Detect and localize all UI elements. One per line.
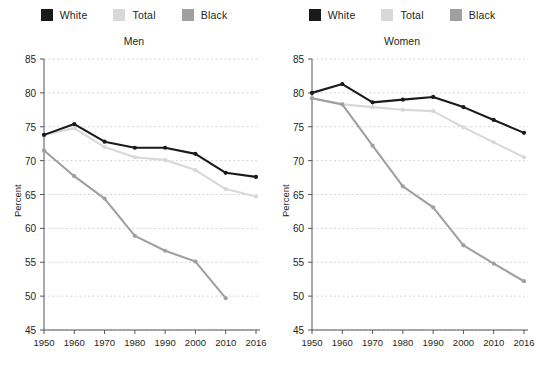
data-point (522, 155, 526, 159)
data-point (193, 259, 197, 263)
data-point (133, 146, 137, 150)
data-point (340, 102, 344, 106)
data-point (163, 146, 167, 150)
x-tick-label: 2000 (185, 337, 206, 348)
x-tick-label: 1990 (423, 337, 444, 348)
x-tick-label: 1950 (33, 337, 54, 348)
data-point (310, 96, 314, 100)
data-point (224, 296, 228, 300)
data-point (461, 243, 465, 247)
data-point (370, 100, 374, 104)
data-point (431, 205, 435, 209)
chart-svg (0, 0, 268, 377)
x-tick-label: 1970 (94, 337, 115, 348)
y-tick-label: 55 (14, 257, 36, 268)
x-tick-label: 1980 (124, 337, 145, 348)
data-point (72, 126, 76, 130)
data-point (102, 145, 106, 149)
x-tick-label: 1990 (155, 337, 176, 348)
data-point (42, 148, 46, 152)
data-point (133, 155, 137, 159)
data-point (193, 152, 197, 156)
data-point (522, 279, 526, 283)
data-point (193, 168, 197, 172)
data-point (492, 140, 496, 144)
data-point (370, 144, 374, 148)
series-line (312, 84, 524, 133)
x-tick-label: 1960 (64, 337, 85, 348)
y-tick-label: 50 (14, 291, 36, 302)
y-axis-label: Percent (12, 184, 23, 217)
y-tick-label: 85 (14, 54, 36, 65)
y-tick-label: 75 (14, 121, 36, 132)
data-point (254, 194, 258, 198)
series-total (42, 126, 258, 199)
y-tick-label: 45 (14, 325, 36, 336)
x-tick-label: 1970 (362, 337, 383, 348)
data-point (224, 171, 228, 175)
y-tick-label: 80 (282, 87, 304, 98)
data-point (163, 158, 167, 162)
chart-panel-men: WhiteTotalBlack Men 45505560657075808519… (0, 0, 268, 377)
data-point (102, 140, 106, 144)
data-point (401, 184, 405, 188)
y-tick-label: 55 (282, 257, 304, 268)
x-tick-label: 2000 (453, 337, 474, 348)
series-black (310, 96, 526, 283)
data-point (431, 95, 435, 99)
series-line (44, 124, 256, 177)
data-point (72, 122, 76, 126)
series-black (42, 148, 228, 300)
series-white (42, 122, 258, 179)
data-point (492, 262, 496, 266)
chart-svg (268, 0, 536, 377)
data-point (492, 118, 496, 122)
y-tick-label: 50 (282, 291, 304, 302)
x-tick-label: 2016 (245, 337, 266, 348)
y-tick-label: 45 (282, 325, 304, 336)
chart-panel-women: WhiteTotalBlack Women 455055606570758085… (268, 0, 536, 377)
x-tick-label: 2016 (513, 337, 534, 348)
series-line (312, 98, 524, 281)
y-tick-label: 60 (282, 223, 304, 234)
plot-area-men: 4550556065707580851950196019701980199020… (0, 0, 268, 377)
y-tick-label: 70 (282, 155, 304, 166)
data-point (370, 105, 374, 109)
series-line (44, 128, 256, 196)
data-point (224, 187, 228, 191)
data-point (72, 174, 76, 178)
y-axis-label: Percent (280, 184, 291, 217)
data-point (133, 234, 137, 238)
y-tick-label: 85 (282, 54, 304, 65)
data-point (461, 105, 465, 109)
x-tick-label: 2010 (483, 337, 504, 348)
data-point (340, 82, 344, 86)
x-tick-label: 1950 (301, 337, 322, 348)
figure: WhiteTotalBlack Men 45505560657075808519… (0, 0, 536, 377)
data-point (163, 249, 167, 253)
data-point (401, 98, 405, 102)
y-tick-label: 75 (282, 121, 304, 132)
data-point (42, 133, 46, 137)
x-tick-label: 1960 (332, 337, 353, 348)
data-point (522, 131, 526, 135)
data-point (310, 91, 314, 95)
plot-area-women: 4550556065707580851950196019701980199020… (268, 0, 536, 377)
data-point (401, 108, 405, 112)
data-point (102, 196, 106, 200)
data-point (431, 109, 435, 113)
y-tick-label: 60 (14, 223, 36, 234)
y-tick-label: 70 (14, 155, 36, 166)
x-tick-label: 1980 (392, 337, 413, 348)
data-point (254, 175, 258, 179)
y-tick-label: 80 (14, 87, 36, 98)
x-tick-label: 2010 (215, 337, 236, 348)
data-point (461, 125, 465, 129)
